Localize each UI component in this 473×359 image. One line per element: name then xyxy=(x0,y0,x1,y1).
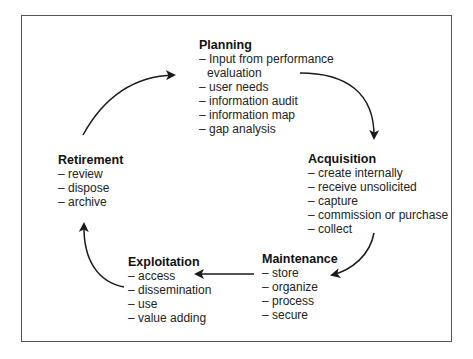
stage-item: evaluation xyxy=(199,66,334,80)
stage-item: – value adding xyxy=(128,311,211,325)
stage-item: – user needs xyxy=(199,80,334,94)
stage-maintenance: Maintenance – store – organize – process… xyxy=(262,252,338,322)
stage-item: – Input from performance xyxy=(199,52,334,66)
stage-item: – dispose xyxy=(58,181,123,195)
stage-retirement: Retirement – review – dispose – archive xyxy=(58,153,123,209)
stage-item: – information map xyxy=(199,108,334,122)
stage-title-retirement: Retirement xyxy=(58,153,123,167)
stage-title-exploitation: Exploitation xyxy=(128,255,211,269)
stage-item: – store xyxy=(262,266,338,280)
stage-item: – review xyxy=(58,167,123,181)
arrow-exploitation-to-retirement xyxy=(84,224,124,287)
stage-title-maintenance: Maintenance xyxy=(262,252,338,266)
stage-item: – access xyxy=(128,269,211,283)
stage-item: – create internally xyxy=(308,166,448,180)
stage-title-planning: Planning xyxy=(199,38,334,52)
stage-item: – information audit xyxy=(199,94,334,108)
stage-exploitation: Exploitation – access – dissemination – … xyxy=(128,255,211,325)
stage-item: – capture xyxy=(308,194,448,208)
stage-item: – organize xyxy=(262,280,338,294)
stage-item: – use xyxy=(128,297,211,311)
stage-title-acquisition: Acquisition xyxy=(308,152,448,166)
stage-item: – commission or purchase xyxy=(308,208,448,222)
stage-item: – collect xyxy=(308,222,448,236)
stage-acquisition: Acquisition – create internally – receiv… xyxy=(308,152,448,236)
stage-item: – gap analysis xyxy=(199,122,334,136)
stage-item: – archive xyxy=(58,195,123,209)
stage-item: – secure xyxy=(262,308,338,322)
arrow-retirement-to-planning xyxy=(83,75,174,135)
stage-item: – dissemination xyxy=(128,283,211,297)
arrow-acquisition-to-maintenance xyxy=(332,233,374,275)
stage-item: – receive unsolicited xyxy=(308,180,448,194)
stage-planning: Planning – Input from performance evalua… xyxy=(199,38,334,136)
stage-item: – process xyxy=(262,294,338,308)
